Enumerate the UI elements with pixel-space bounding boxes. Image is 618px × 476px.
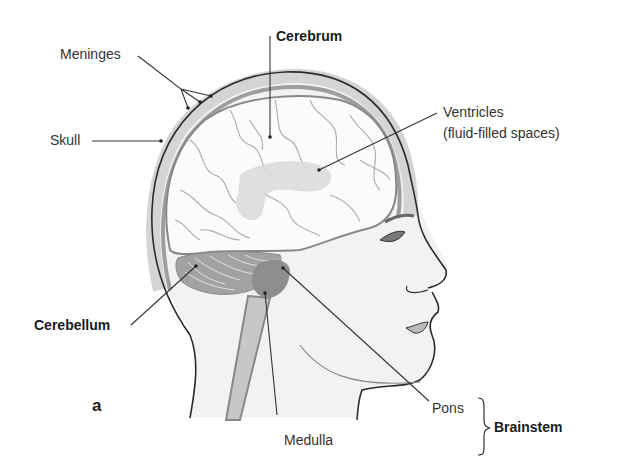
- label-ventricles: Ventricles: [443, 104, 504, 120]
- label-skull: Skull: [50, 132, 80, 148]
- label-medulla: Medulla: [284, 432, 333, 448]
- label-meninges: Meninges: [60, 46, 121, 62]
- label-cerebrum: Cerebrum: [276, 28, 342, 44]
- brainstem-brace: [478, 398, 490, 455]
- label-brainstem: Brainstem: [494, 419, 562, 435]
- label-cerebellum: Cerebellum: [34, 317, 110, 333]
- panel-letter: a: [92, 398, 101, 414]
- label-ventricles-note: (fluid-filled spaces): [443, 125, 560, 141]
- label-pons: Pons: [432, 400, 464, 416]
